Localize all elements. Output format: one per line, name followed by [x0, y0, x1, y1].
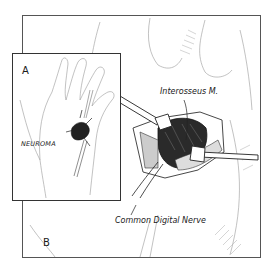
neuroma-label: NEUROMA — [21, 141, 56, 148]
interosseus-label: Interosseus M. — [160, 88, 218, 96]
panel-b-label: B — [43, 238, 50, 248]
common-digital-nerve-label: Common Digital Nerve — [115, 217, 206, 225]
surgical-illustration: A B NEUROMA Interosseus M. Common Digita… — [0, 0, 269, 263]
panel-a-label: A — [22, 66, 29, 76]
